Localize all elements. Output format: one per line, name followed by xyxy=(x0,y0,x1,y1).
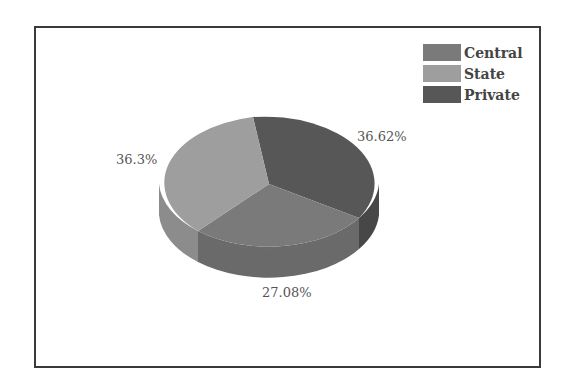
legend-label: State xyxy=(464,66,505,82)
data-label-central: 27.08% xyxy=(262,285,312,300)
legend-label: Private xyxy=(464,87,520,103)
legend-item-state[interactable]: State xyxy=(423,63,522,84)
legend-swatch-state xyxy=(423,65,461,82)
chart-frame: Central State Private 36.62% 36.3% 27.08… xyxy=(34,26,541,368)
data-label-private: 36.62% xyxy=(357,129,407,144)
legend-item-private[interactable]: Private xyxy=(423,84,522,105)
legend-swatch-central xyxy=(423,44,461,61)
legend-label: Central xyxy=(464,45,522,61)
legend-swatch-private xyxy=(423,86,461,103)
data-label-state: 36.3% xyxy=(116,152,157,167)
legend: Central State Private xyxy=(423,42,522,105)
legend-item-central[interactable]: Central xyxy=(423,42,522,63)
